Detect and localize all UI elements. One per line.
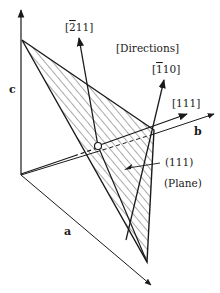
direction-111-label: [111] [172, 97, 200, 109]
plane-caption: (Plane) [164, 177, 202, 189]
b-axis-front [21, 152, 96, 175]
b-axis-back [154, 114, 214, 134]
c-axis-label: c [9, 83, 16, 96]
direction-2bar11-label: [211] [65, 21, 93, 33]
svg-text:[110]: [110] [152, 63, 180, 75]
crystal-diagram: c b a [Directions] [211] [110] [111] (11… [0, 0, 220, 293]
b-axis-label: b [194, 125, 202, 138]
direction-111-front [21, 156, 74, 174]
origin-point [95, 143, 102, 150]
overbar-digit: 1 [156, 63, 163, 75]
overbar-digit: 2 [69, 21, 76, 33]
directions-heading: [Directions] [116, 42, 179, 54]
svg-text:[211]: [211] [65, 21, 93, 33]
direction-1bar10-label: [110] [152, 63, 180, 75]
plane-111-label: (111) [165, 156, 193, 168]
a-axis-label: a [64, 225, 71, 238]
